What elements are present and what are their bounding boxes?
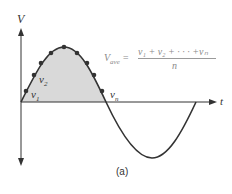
y-axis-label: V [17,12,24,27]
formula-denominator: n [172,60,177,71]
y-axis-up-arrow-icon [18,28,24,36]
formula-lhs: Vave = [104,52,129,66]
y-axis-down-arrow-icon [18,158,24,166]
x-axis-label: t [220,95,223,107]
fraction-bar [138,58,216,59]
sample-label-v1: v1 [31,88,39,103]
figure-caption: (a) [116,166,128,177]
sample-label-vn: vn [110,88,118,103]
sample-label-v2: v2 [39,73,47,88]
formula-numerator: v₁ + v₂ + · · · +vₙ [138,46,208,57]
x-axis-arrow-icon [209,99,217,105]
